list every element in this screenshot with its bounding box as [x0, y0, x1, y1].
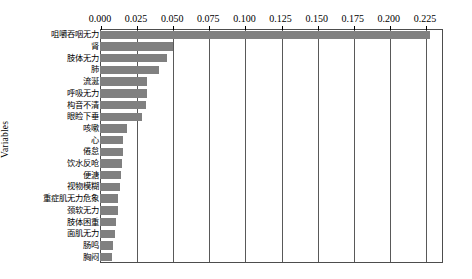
bar: [100, 253, 112, 261]
bar: [100, 101, 146, 109]
bar-row: [100, 124, 443, 132]
bar-row: [100, 113, 443, 121]
x-tick-label: 0.100: [233, 13, 256, 24]
bar: [100, 42, 173, 50]
category-label: 构音不清: [67, 101, 99, 109]
bar-row: [100, 171, 443, 179]
bar-row: [100, 230, 443, 238]
category-label: 肾: [91, 42, 99, 50]
category-label: 视物模糊: [67, 182, 99, 190]
x-tick-label: 0.125: [269, 13, 292, 24]
bar: [100, 66, 159, 74]
bar: [100, 206, 118, 214]
category-label: 便溏: [83, 171, 99, 179]
category-label: 肠鸣: [83, 241, 99, 249]
bar: [100, 148, 123, 156]
category-label: 肢体困重: [67, 218, 99, 226]
category-label: 咀嚼吞咽无力: [51, 30, 99, 38]
bar-row: [100, 159, 443, 167]
bar: [100, 136, 123, 144]
bar-row: [100, 77, 443, 85]
bar-row: [100, 241, 443, 249]
x-tick-label: 0.200: [378, 13, 401, 24]
x-tick-label: 0.050: [161, 13, 184, 24]
category-labels: 咀嚼吞咽无力肾肢体无力肺流涎呼吸无力构音不清眼睑下垂咳嗽心倦怠饮水反呛便溏视物模…: [0, 29, 100, 263]
x-tick-label: 0.175: [341, 13, 364, 24]
x-axis-tick-labels: 0.0000.0250.0500.0750.1000.1250.1500.175…: [0, 13, 472, 27]
category-label: 眼睑下垂: [67, 112, 99, 120]
category-label: 流涎: [83, 77, 99, 85]
category-label: 咳嗽: [83, 124, 99, 132]
bar-row: [100, 89, 443, 97]
x-tick-label: 0.075: [197, 13, 220, 24]
category-label: 重症肌无力危象: [43, 194, 99, 202]
x-tick-label: 0.225: [414, 13, 437, 24]
bar-row: [100, 31, 443, 39]
x-tick-label: 0.150: [305, 13, 328, 24]
bar: [100, 230, 115, 238]
bar: [100, 241, 113, 249]
category-label: 肢体无力: [67, 54, 99, 62]
bar: [100, 159, 122, 167]
bar-row: [100, 42, 443, 50]
category-label: 饮水反呛: [67, 159, 99, 167]
bar-row: [100, 66, 443, 74]
category-label: 胸闷: [83, 253, 99, 261]
x-tick-label: 0.025: [125, 13, 148, 24]
category-label: 呼吸无力: [67, 89, 99, 97]
bar: [100, 124, 127, 132]
bar-row: [100, 101, 443, 109]
category-label: 心: [91, 136, 99, 144]
bar-row: [100, 148, 443, 156]
bar-chart: Variables 0.0000.0250.0500.0750.1000.125…: [0, 0, 472, 279]
category-label: 肺: [91, 65, 99, 73]
category-label: 面肌无力: [67, 229, 99, 237]
category-label: 倦怠: [83, 147, 99, 155]
bar: [100, 89, 147, 97]
bar-row: [100, 253, 443, 261]
bar: [100, 113, 142, 121]
bar-row: [100, 206, 443, 214]
x-tick-label: 0.000: [89, 13, 112, 24]
bar: [100, 31, 430, 39]
bar-row: [100, 54, 443, 62]
bar-row: [100, 136, 443, 144]
bar: [100, 194, 118, 202]
bar-row: [100, 183, 443, 191]
bars-layer: [100, 29, 443, 263]
bar: [100, 54, 167, 62]
bar-row: [100, 194, 443, 202]
bar: [100, 218, 116, 226]
bar: [100, 183, 120, 191]
bar: [100, 171, 121, 179]
bar: [100, 77, 147, 85]
category-label: 颈软无力: [67, 206, 99, 214]
bar-row: [100, 218, 443, 226]
